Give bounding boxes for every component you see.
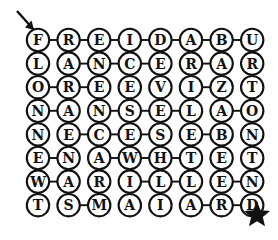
letter-node[interactable]: T — [241, 76, 263, 98]
letter-node[interactable]: E — [210, 170, 232, 192]
letter-node-label: O — [246, 103, 258, 119]
letter-node[interactable]: H — [149, 147, 171, 169]
letter-node[interactable]: A — [57, 100, 79, 122]
letter-node[interactable]: A — [180, 29, 202, 51]
letter-node-label: S — [64, 197, 74, 213]
letter-node-label: A — [185, 197, 198, 213]
letter-node[interactable]: C — [119, 52, 141, 74]
letter-node[interactable]: E — [57, 123, 79, 145]
letter-node[interactable]: R — [88, 170, 110, 192]
letter-node-label: N — [93, 103, 106, 119]
letter-node[interactable]: O — [27, 76, 49, 98]
letter-node-label: I — [127, 174, 134, 190]
letter-node[interactable]: E — [88, 29, 110, 51]
letter-node[interactable]: C — [88, 123, 110, 145]
letter-node[interactable]: R — [210, 194, 232, 216]
letter-node-label: M — [91, 197, 107, 213]
letter-node-label: I — [188, 79, 195, 95]
letter-node[interactable]: M — [88, 194, 110, 216]
letter-node[interactable]: F — [27, 29, 49, 51]
letter-node[interactable]: U — [241, 29, 263, 51]
letter-node[interactable]: E — [88, 76, 110, 98]
letter-node[interactable]: O — [241, 100, 263, 122]
letter-node-label: B — [216, 127, 228, 143]
letter-node[interactable]: I — [119, 29, 141, 51]
letter-node-label: E — [124, 79, 135, 95]
letter-node[interactable]: I — [119, 170, 141, 192]
letter-node[interactable]: S — [149, 123, 171, 145]
letter-node[interactable]: A — [180, 194, 202, 216]
letter-node[interactable]: Z — [210, 76, 232, 98]
letter-node-label: E — [186, 127, 197, 143]
letter-node[interactable]: I — [149, 194, 171, 216]
letter-node[interactable]: T — [241, 147, 263, 169]
puzzle-board: FREIDABULANCERAROREEVIZTNANSELAONECESEBN… — [0, 0, 278, 240]
letter-node[interactable]: B — [210, 29, 232, 51]
letter-node[interactable]: T — [180, 147, 202, 169]
letter-node-label: T — [33, 197, 44, 213]
letter-node-label: F — [33, 32, 43, 48]
letter-node-label: E — [216, 174, 227, 190]
letter-node[interactable]: W — [27, 170, 49, 192]
letter-node-label: A — [215, 56, 228, 72]
letter-node[interactable]: E — [149, 52, 171, 74]
letter-node-label: L — [33, 56, 43, 72]
letter-node[interactable]: E — [27, 147, 49, 169]
letter-node[interactable]: D — [149, 29, 171, 51]
letter-node-label: N — [62, 150, 75, 166]
letter-node[interactable]: N — [27, 100, 49, 122]
letter-node[interactable]: N — [27, 123, 49, 145]
letter-node-label: E — [124, 127, 135, 143]
letter-node-label: A — [215, 103, 228, 119]
letter-node[interactable]: A — [210, 52, 232, 74]
letter-node-label: Z — [216, 79, 226, 95]
letter-node-label: T — [186, 150, 197, 166]
letter-node-label: R — [93, 174, 105, 190]
letter-node[interactable]: A — [57, 170, 79, 192]
letter-node-label: C — [94, 127, 105, 143]
letter-node[interactable]: A — [210, 100, 232, 122]
letter-node[interactable]: R — [57, 29, 79, 51]
letter-node[interactable]: E — [149, 100, 171, 122]
letter-node-label: N — [32, 103, 45, 119]
letter-node[interactable]: L — [180, 170, 202, 192]
letter-node[interactable]: A — [119, 194, 141, 216]
letter-node[interactable]: N — [57, 147, 79, 169]
letter-node-label: L — [155, 174, 165, 190]
letter-node[interactable]: V — [149, 76, 171, 98]
letter-node-label: R — [63, 79, 75, 95]
letter-node[interactable]: L — [180, 100, 202, 122]
letter-node[interactable]: S — [119, 100, 141, 122]
letter-node[interactable]: E — [180, 123, 202, 145]
letter-node[interactable]: R — [57, 76, 79, 98]
letter-node[interactable]: L — [149, 170, 171, 192]
letter-node[interactable]: L — [27, 52, 49, 74]
letter-node-label: N — [246, 127, 259, 143]
letter-node-label: O — [32, 79, 44, 95]
letter-node[interactable]: E — [210, 147, 232, 169]
letter-node-label: I — [127, 32, 134, 48]
letter-node[interactable]: N — [88, 100, 110, 122]
letter-node[interactable]: B — [210, 123, 232, 145]
letter-node[interactable]: E — [119, 123, 141, 145]
letter-node-label: L — [186, 103, 196, 119]
letter-node[interactable]: T — [27, 194, 49, 216]
letter-node[interactable]: S — [57, 194, 79, 216]
letter-node-label: C — [124, 56, 135, 72]
letter-node[interactable]: R — [180, 52, 202, 74]
letter-node[interactable]: N — [241, 123, 263, 145]
letter-node-label: R — [216, 197, 228, 213]
letter-node[interactable]: W — [119, 147, 141, 169]
letter-node[interactable]: A — [88, 147, 110, 169]
letter-node-label: N — [32, 127, 45, 143]
letter-grid-puzzle: FREIDABULANCERAROREEVIZTNANSELAONECESEBN… — [0, 0, 278, 240]
letter-node[interactable]: N — [241, 170, 263, 192]
letter-node-label: H — [154, 150, 167, 166]
letter-node[interactable]: I — [180, 76, 202, 98]
letter-node[interactable]: E — [119, 76, 141, 98]
letter-node-label: S — [155, 127, 165, 143]
letter-node[interactable]: A — [57, 52, 79, 74]
letter-node[interactable]: R — [241, 52, 263, 74]
letter-node-label: L — [186, 174, 196, 190]
letter-node[interactable]: N — [88, 52, 110, 74]
